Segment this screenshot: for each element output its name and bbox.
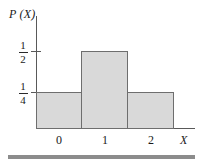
x-tick-label-0: 0 — [47, 134, 71, 146]
y-axis-label: P (X) — [9, 7, 35, 22]
x-axis-label: X — [180, 134, 187, 146]
bottom-rule — [8, 155, 195, 159]
histogram-bar — [127, 92, 174, 129]
x-tick-label-2: 2 — [139, 134, 163, 146]
histogram-bar — [81, 51, 128, 129]
fraction-numerator: 1 — [13, 81, 33, 92]
fraction-denominator: 2 — [13, 54, 33, 65]
y-tick-label-one-half: 1 2 — [13, 40, 33, 65]
x-tick-label-1: 1 — [93, 134, 117, 146]
fraction-denominator: 4 — [13, 95, 33, 106]
first-bar-left-edge — [36, 92, 37, 129]
y-tick-label-one-quarter: 1 4 — [13, 81, 33, 106]
fraction-numerator: 1 — [13, 40, 33, 51]
probability-histogram-figure: P (X) 1 2 1 4 0 1 2 X — [0, 0, 201, 164]
histogram-bar — [36, 92, 82, 129]
